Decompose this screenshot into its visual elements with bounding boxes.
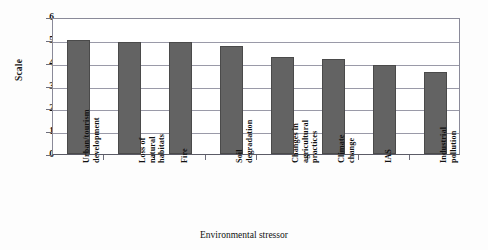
x-axis-tick-mark (409, 155, 410, 160)
y-axis-title: Scale (14, 44, 30, 96)
x-axis-tick-mark (205, 155, 206, 160)
x-axis-category-label: Urban/tourism development (82, 93, 94, 163)
x-axis-tick-mark (103, 155, 104, 160)
gridline (53, 88, 459, 89)
x-axis-tick-mark (358, 155, 359, 160)
x-axis-title: Environmental stressor (0, 230, 488, 240)
x-axis-category-label: Fire (180, 93, 192, 163)
gridline (53, 133, 459, 134)
gridline (53, 42, 459, 43)
x-axis-category-label: Industrial pollution (439, 93, 451, 163)
x-axis-category-label: IAS (384, 93, 396, 163)
x-axis-category-label: Climate change (337, 93, 349, 163)
x-axis-tick-mark (256, 155, 257, 160)
x-axis-category-label: Loss of natural habitats (138, 93, 150, 163)
plot-area (52, 18, 460, 155)
gridline (53, 110, 459, 111)
bar-chart: Scale 0123456 Urban/tourism developmentL… (0, 0, 488, 250)
y-axis-tick-mark (46, 155, 52, 156)
x-axis-category-label: Changes in agricultural practices (291, 93, 303, 163)
x-axis-category-label: Soil degradation (235, 93, 247, 163)
gridline (53, 65, 459, 66)
